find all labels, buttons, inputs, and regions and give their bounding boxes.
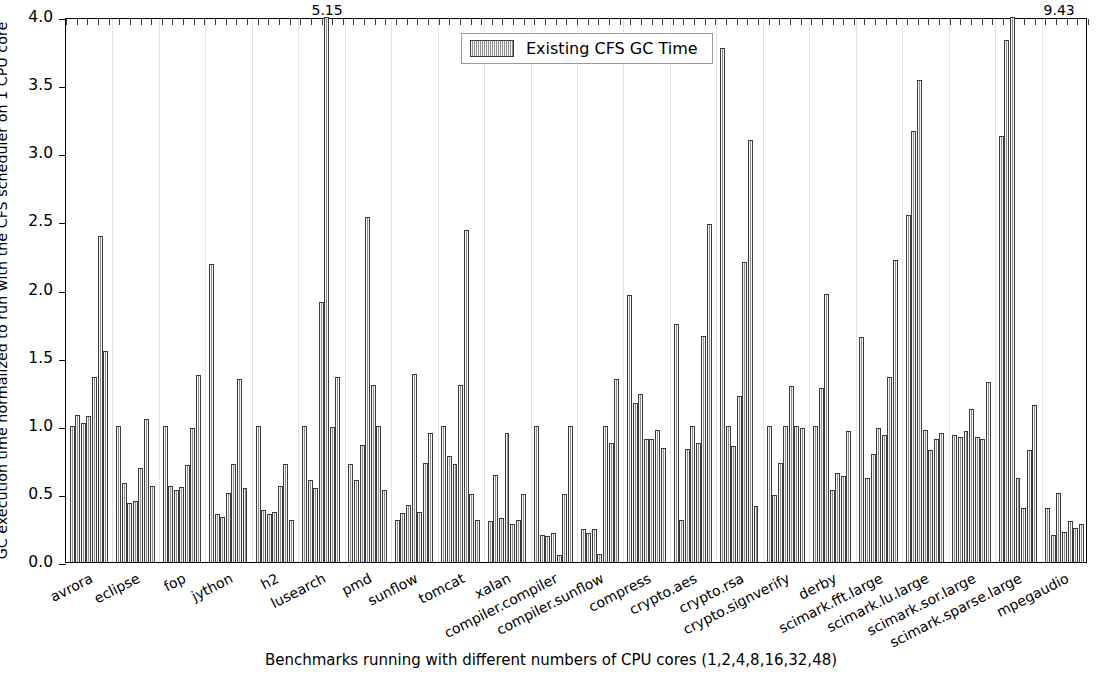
bar bbox=[75, 415, 80, 562]
bar bbox=[190, 428, 195, 562]
bar bbox=[441, 426, 446, 562]
bar bbox=[720, 48, 725, 562]
bar bbox=[917, 80, 922, 562]
bar bbox=[865, 478, 870, 562]
bar bbox=[289, 520, 294, 562]
y-axis-label: 2.5 bbox=[0, 212, 53, 230]
bar bbox=[1010, 17, 1015, 562]
bar bbox=[475, 520, 480, 562]
bar bbox=[510, 524, 515, 562]
bar bbox=[707, 224, 712, 562]
bar bbox=[614, 379, 619, 562]
bar bbox=[365, 217, 370, 562]
bar bbox=[308, 480, 313, 562]
top-tick bbox=[1088, 19, 1089, 25]
y-axis-label: 4.0 bbox=[0, 8, 53, 26]
y-axis-tick bbox=[59, 87, 66, 88]
legend-label-existing-cfs-gc-time: Existing CFS GC Time bbox=[526, 39, 698, 58]
bar bbox=[417, 512, 422, 562]
x-axis-label: h2 bbox=[274, 562, 297, 584]
bar bbox=[278, 486, 283, 562]
y-axis-label: 2.0 bbox=[0, 281, 53, 299]
bar bbox=[534, 426, 539, 562]
bar bbox=[748, 140, 753, 562]
plot-area: 5.159.43 Existing CFS GC Time bbox=[65, 18, 1087, 563]
bar bbox=[302, 426, 307, 562]
bar bbox=[906, 215, 911, 562]
bar bbox=[360, 445, 365, 562]
x-axis-title: Benchmarks running with different number… bbox=[0, 651, 1102, 669]
bar bbox=[382, 490, 387, 562]
bar bbox=[568, 426, 573, 562]
y-axis-tick bbox=[59, 223, 66, 224]
bar bbox=[428, 433, 433, 562]
bar bbox=[133, 501, 138, 562]
bar bbox=[813, 426, 818, 562]
bar bbox=[911, 131, 916, 562]
bar bbox=[231, 464, 236, 562]
bar bbox=[319, 302, 324, 562]
bar bbox=[859, 337, 864, 562]
bar bbox=[371, 385, 376, 562]
y-axis-tick bbox=[59, 292, 66, 293]
value-annotation: 9.43 bbox=[1044, 2, 1075, 18]
bar bbox=[144, 419, 149, 562]
bar bbox=[545, 536, 550, 562]
x-axis-label-text: h2 bbox=[258, 570, 281, 592]
y-axis-label: 3.5 bbox=[0, 76, 53, 94]
y-axis-label: 3.0 bbox=[0, 144, 53, 162]
y-axis-label: 0.5 bbox=[0, 485, 53, 503]
bar bbox=[999, 136, 1004, 562]
bar bbox=[819, 388, 824, 562]
bar bbox=[313, 488, 318, 562]
bar bbox=[324, 17, 329, 562]
legend: Existing CFS GC Time bbox=[461, 33, 713, 64]
bar bbox=[1004, 40, 1009, 562]
bar bbox=[215, 514, 220, 562]
bar bbox=[551, 533, 556, 562]
y-axis-tick bbox=[59, 428, 66, 429]
bar bbox=[376, 426, 381, 562]
bar bbox=[103, 351, 108, 562]
x-axis-label-text: fop bbox=[161, 570, 188, 594]
bar bbox=[330, 427, 335, 562]
bar bbox=[557, 555, 562, 562]
bar bbox=[690, 426, 695, 562]
bar bbox=[196, 375, 201, 562]
bar bbox=[185, 465, 190, 562]
bar bbox=[469, 494, 474, 562]
bar bbox=[731, 446, 736, 562]
bar bbox=[737, 396, 742, 562]
bar bbox=[98, 236, 103, 562]
bar bbox=[335, 377, 340, 562]
y-axis-label: 0.0 bbox=[0, 553, 53, 571]
bar bbox=[237, 379, 242, 562]
bar bbox=[92, 377, 97, 562]
bar bbox=[209, 264, 214, 562]
bar bbox=[395, 520, 400, 562]
bar bbox=[163, 426, 168, 562]
bar bbox=[86, 416, 91, 562]
bar bbox=[406, 505, 411, 562]
bar bbox=[348, 464, 353, 562]
bar bbox=[627, 295, 632, 562]
legend-swatch-existing-cfs-gc-time bbox=[470, 40, 514, 57]
bar bbox=[521, 494, 526, 562]
bar bbox=[824, 294, 829, 562]
x-axis-label: fop bbox=[181, 560, 208, 584]
bar bbox=[226, 493, 231, 562]
bar bbox=[767, 426, 772, 562]
bar bbox=[81, 423, 86, 562]
y-axis-tick bbox=[59, 496, 66, 497]
bar bbox=[116, 426, 121, 562]
bar bbox=[70, 426, 75, 562]
bar bbox=[876, 428, 881, 562]
bar-series bbox=[66, 19, 1086, 562]
y-axis-tick bbox=[59, 564, 66, 565]
y-axis-tick bbox=[59, 360, 66, 361]
bar bbox=[871, 454, 876, 562]
bar bbox=[220, 517, 225, 562]
bar bbox=[272, 512, 277, 562]
bar bbox=[283, 464, 288, 562]
bar bbox=[685, 449, 690, 562]
